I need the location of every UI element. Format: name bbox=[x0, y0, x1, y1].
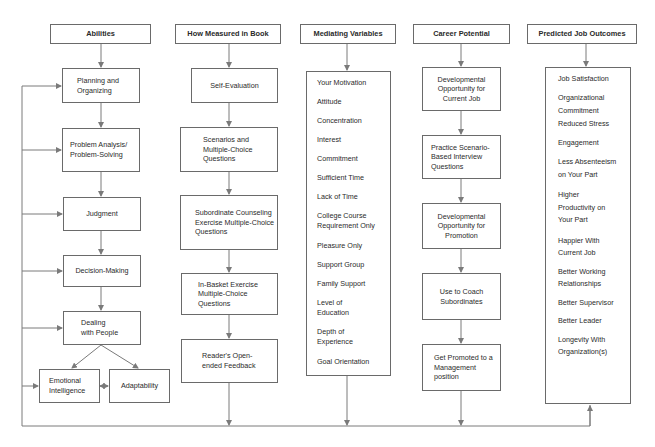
ability-dealing-with-people: Dealing with People bbox=[63, 311, 141, 345]
measure-self-evaluation: Self-Evaluation bbox=[191, 68, 278, 103]
box-label: Use to Coach Subordinates bbox=[437, 287, 486, 306]
career-dev-promotion: Developmental Opportunity for Promotion bbox=[422, 203, 501, 249]
ability-judgment: Judgment bbox=[63, 197, 141, 231]
list-item: Better Supervisor bbox=[558, 298, 626, 307]
list-item: Goal Orientation bbox=[317, 357, 384, 366]
header-label: Career Potential bbox=[433, 29, 490, 39]
box-label: Judgment bbox=[86, 209, 118, 219]
box-label: Reader's Open-ended Feedback bbox=[202, 351, 261, 370]
flow-diagram: Abilities How Measured in Book Mediating… bbox=[0, 0, 655, 447]
box-label: Scenarios and Multiple-Choice Questions bbox=[203, 135, 263, 164]
list-item: Happier With Current Job bbox=[558, 235, 610, 260]
box-label: Get Promoted to a Management position bbox=[434, 353, 494, 382]
list-item: Depth of Experience bbox=[317, 327, 357, 347]
list-item: Interest bbox=[317, 135, 384, 144]
list-item: Pleasure Only bbox=[317, 241, 384, 250]
list-item: Better Working Relationships bbox=[558, 266, 614, 291]
list-item: Longevity With Organization(s) bbox=[558, 334, 614, 359]
ability-emotional-intelligence: Emotional Intelligence bbox=[39, 369, 100, 403]
measure-scenarios: Scenarios and Multiple-Choice Questions bbox=[180, 127, 278, 172]
list-item: Family Support bbox=[317, 279, 384, 288]
list-item: Higher Productivity on Your Part bbox=[558, 189, 614, 227]
box-label: Adaptability bbox=[121, 381, 158, 391]
career-practice-interview: Practice Scenario-Based Interview Questi… bbox=[422, 135, 501, 179]
measure-reader-feedback: Reader's Open-ended Feedback bbox=[181, 339, 278, 383]
list-item: Attitude bbox=[317, 97, 384, 106]
career-get-promoted: Get Promoted to a Management position bbox=[422, 344, 501, 391]
list-item: Reduced Stress bbox=[558, 119, 626, 128]
list-item: Job Satisfaction bbox=[558, 74, 626, 83]
measure-subordinate-counseling: Subordinate Counseling Exercise Multiple… bbox=[180, 195, 278, 250]
header-how-measured: How Measured in Book bbox=[175, 24, 281, 44]
box-label: In-Basket Exercise Multiple-Choice Quest… bbox=[198, 280, 273, 309]
header-label: How Measured in Book bbox=[187, 29, 268, 39]
list-item: College Course Requirement Only bbox=[317, 211, 384, 231]
box-label: Dealing with People bbox=[81, 318, 120, 337]
header-predicted-outcomes: Predicted Job Outcomes bbox=[527, 24, 637, 44]
box-label: Emotional Intelligence bbox=[49, 376, 95, 395]
header-label: Abilities bbox=[86, 29, 115, 39]
list-item: Lack of Time bbox=[317, 192, 384, 201]
box-label: Practice Scenario-Based Interview Questi… bbox=[431, 143, 498, 172]
header-career-potential: Career Potential bbox=[413, 24, 510, 44]
mediating-variables-list: Your Motivation Attitude Concentration I… bbox=[306, 71, 391, 376]
ability-planning-organizing: Planning and Organizing bbox=[62, 68, 140, 103]
list-item: Sufficient Time bbox=[317, 173, 384, 182]
career-coach-subordinates: Use to Coach Subordinates bbox=[422, 273, 501, 320]
measure-in-basket: In-Basket Exercise Multiple-Choice Quest… bbox=[181, 273, 278, 315]
box-label: Problem Analysis/ Problem-Solving bbox=[70, 140, 135, 159]
list-item: Your Motivation bbox=[317, 78, 384, 87]
box-label: Self-Evaluation bbox=[210, 81, 258, 91]
box-label: Subordinate Counseling Exercise Multiple… bbox=[195, 208, 275, 237]
list-item: Concentration bbox=[317, 116, 384, 125]
box-label: Decision-Making bbox=[75, 266, 128, 276]
header-abilities: Abilities bbox=[50, 24, 151, 44]
list-item: Engagement bbox=[558, 138, 626, 147]
ability-decision-making: Decision-Making bbox=[63, 255, 141, 287]
list-item: Commitment bbox=[317, 154, 384, 163]
list-item: Support Group bbox=[317, 260, 384, 269]
list-item: Less Absenteeism on Your Part bbox=[558, 156, 626, 181]
list-item: Level of Education bbox=[317, 298, 357, 318]
box-label: Planning and Organizing bbox=[77, 76, 135, 95]
header-label: Predicted Job Outcomes bbox=[538, 29, 625, 39]
list-item: Organizational Commitment bbox=[558, 92, 614, 117]
header-mediating-variables: Mediating Variables bbox=[300, 24, 396, 44]
ability-adaptability: Adaptability bbox=[109, 369, 170, 403]
predicted-outcomes-list: Job Satisfaction Organizational Commitme… bbox=[545, 67, 631, 404]
career-dev-current-job: Developmental Opportunity for Current Jo… bbox=[422, 67, 501, 111]
box-label: Developmental Opportunity for Current Jo… bbox=[431, 75, 492, 104]
list-item: Better Leader bbox=[558, 316, 626, 325]
ability-problem-analysis: Problem Analysis/ Problem-Solving bbox=[62, 128, 140, 172]
header-label: Mediating Variables bbox=[313, 29, 382, 39]
box-label: Developmental Opportunity for Promotion bbox=[431, 212, 492, 241]
